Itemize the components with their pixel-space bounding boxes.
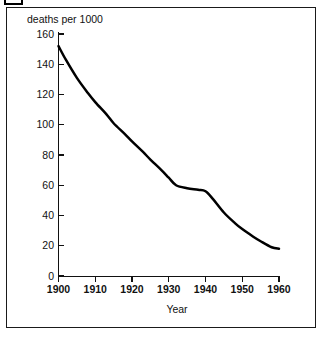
y-tick-label: 80 (42, 149, 54, 161)
x-tick-label: 1910 (84, 283, 108, 295)
y-tick-label: 60 (42, 179, 54, 191)
x-axis-tick-labels: 1900 1910 1920 1930 1940 1950 1960 (47, 283, 291, 295)
line-chart: deaths per 1000 0 20 40 (7, 8, 314, 326)
x-tick-label: 1950 (231, 283, 255, 295)
y-axis-tick-labels: 0 20 40 60 80 100 120 140 160 (36, 28, 54, 282)
y-tick-label: 140 (36, 58, 54, 70)
figure-panel: deaths per 1000 0 20 40 (6, 7, 316, 328)
x-tick-label: 1930 (157, 283, 181, 295)
y-tick-label: 120 (36, 88, 54, 100)
y-axis-title: deaths per 1000 (27, 13, 103, 25)
x-axis-title: Year (166, 303, 188, 315)
y-axis-ticks (59, 34, 64, 276)
x-tick-label: 1920 (120, 283, 144, 295)
y-tick-label: 160 (36, 28, 54, 40)
crop-marker-box (4, 0, 23, 5)
y-tick-label: 20 (42, 239, 54, 251)
y-tick-label: 100 (36, 118, 54, 130)
y-tick-label: 0 (48, 270, 54, 282)
x-tick-label: 1900 (47, 283, 71, 295)
plot-area: deaths per 1000 0 20 40 (7, 8, 315, 327)
y-tick-label: 40 (42, 209, 54, 221)
data-series-line (59, 46, 280, 249)
x-tick-label: 1940 (194, 283, 218, 295)
x-tick-label: 1960 (267, 283, 291, 295)
